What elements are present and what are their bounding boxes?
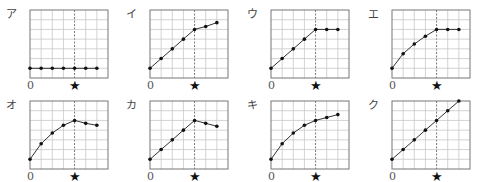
- data-point: [159, 57, 163, 61]
- data-point: [84, 66, 88, 70]
- data-point: [62, 66, 66, 70]
- line-plot: [362, 0, 482, 91]
- chart-panel-7: キ0★: [241, 91, 361, 182]
- data-point: [390, 157, 394, 161]
- data-point: [84, 122, 88, 126]
- data-point: [280, 142, 284, 146]
- data-point: [95, 123, 99, 127]
- data-point: [457, 28, 461, 32]
- data-point: [325, 116, 329, 120]
- plot-frame: [150, 10, 228, 78]
- data-point: [148, 66, 152, 70]
- data-point: [336, 28, 340, 32]
- data-point: [193, 28, 197, 32]
- origin-label: 0: [389, 170, 396, 182]
- data-point: [204, 122, 208, 126]
- data-point: [193, 119, 197, 123]
- data-point: [280, 57, 284, 61]
- data-point: [314, 28, 318, 32]
- data-point: [412, 138, 416, 142]
- origin-label: 0: [27, 170, 34, 182]
- data-point: [412, 42, 416, 46]
- data-point: [215, 21, 219, 25]
- plot-frame: [150, 101, 228, 169]
- data-point: [269, 66, 273, 70]
- data-point: [401, 148, 405, 152]
- data-point: [446, 109, 450, 113]
- line-plot: [0, 0, 120, 91]
- data-point: [435, 119, 439, 123]
- data-point: [28, 157, 32, 161]
- chart-panel-1: ア0★: [0, 0, 120, 91]
- origin-label: 0: [147, 170, 154, 182]
- chart-panel-4: エ0★: [362, 0, 482, 91]
- origin-label: 0: [268, 170, 275, 182]
- star-icon: ★: [431, 170, 443, 182]
- plot-frame: [392, 101, 470, 169]
- chart-panel-8: ク0★: [362, 91, 482, 182]
- data-point: [401, 52, 405, 56]
- plot-frame: [271, 10, 349, 78]
- data-point: [269, 157, 273, 161]
- data-point: [291, 47, 295, 51]
- data-point: [446, 28, 450, 32]
- chart-panel-5: オ0★: [0, 91, 120, 182]
- data-point: [390, 66, 394, 70]
- data-point: [50, 66, 54, 70]
- line-plot: [241, 91, 361, 182]
- data-point: [95, 66, 99, 70]
- plot-frame: [30, 101, 108, 169]
- data-point: [303, 123, 307, 127]
- plot-frame: [271, 101, 349, 169]
- data-point: [325, 28, 329, 32]
- data-point: [73, 66, 77, 70]
- data-point: [159, 148, 163, 152]
- data-point: [435, 28, 439, 32]
- data-point: [336, 113, 340, 117]
- data-point: [62, 123, 66, 127]
- data-point: [50, 131, 54, 135]
- data-point: [170, 138, 174, 142]
- chart-panel-6: カ0★: [120, 91, 240, 182]
- chart-panel-3: ウ0★: [241, 0, 361, 91]
- data-point: [28, 66, 32, 70]
- data-point: [73, 119, 77, 123]
- data-point: [291, 131, 295, 135]
- data-point: [314, 119, 318, 123]
- data-point: [170, 47, 174, 51]
- data-point: [39, 142, 43, 146]
- data-point: [303, 37, 307, 41]
- line-plot: [0, 91, 120, 182]
- data-point: [204, 25, 208, 29]
- line-plot: [120, 0, 240, 91]
- data-point: [148, 157, 152, 161]
- data-point: [39, 66, 43, 70]
- star-icon: ★: [310, 170, 322, 182]
- line-plot: [241, 0, 361, 91]
- star-icon: ★: [189, 170, 201, 182]
- data-point: [182, 128, 186, 132]
- data-point: [215, 124, 219, 128]
- data-point: [424, 34, 428, 38]
- star-icon: ★: [69, 170, 81, 182]
- line-plot: [362, 91, 482, 182]
- plot-frame: [392, 10, 470, 78]
- data-point: [424, 128, 428, 132]
- line-plot: [120, 91, 240, 182]
- chart-panel-2: イ0★: [120, 0, 240, 91]
- data-point: [182, 37, 186, 41]
- data-point: [457, 99, 461, 103]
